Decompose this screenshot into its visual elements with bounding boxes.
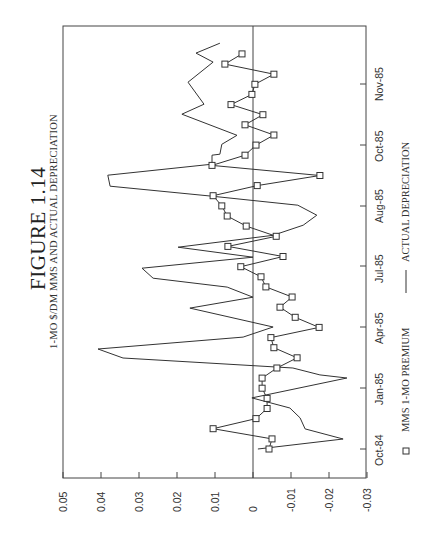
mms-data-point-marker <box>228 102 234 108</box>
mms-data-point-marker <box>253 142 259 148</box>
mms-premium-markers <box>209 51 323 452</box>
mms-data-point-marker <box>269 436 275 442</box>
value-tick-label: 0.02 <box>171 492 183 512</box>
mms-data-point-marker <box>259 385 265 391</box>
actual-depreciation-series <box>98 43 347 449</box>
mms-data-point-marker <box>273 233 279 239</box>
mms-data-point-marker <box>210 426 216 432</box>
mms-data-point-marker <box>268 335 274 341</box>
mms-data-point-marker <box>219 203 225 209</box>
mms-data-point-marker <box>271 345 277 351</box>
mms-data-point-marker <box>271 71 277 77</box>
chart-canvas <box>0 0 436 538</box>
date-tick-label: Apr-85 <box>373 312 385 344</box>
value-axis-ticks <box>63 472 367 478</box>
mms-data-point-marker <box>317 173 323 179</box>
mms-data-point-marker <box>294 355 300 361</box>
mms-data-point-marker <box>264 395 270 401</box>
date-tick-label: Jan-85 <box>373 373 385 405</box>
mms-data-point-marker <box>224 213 230 219</box>
mms-data-point-marker <box>260 112 266 118</box>
mms-data-point-marker <box>209 162 215 168</box>
value-tick-label: 0.05 <box>57 492 69 512</box>
mms-data-point-marker <box>242 152 248 158</box>
mms-data-point-marker <box>264 406 270 412</box>
mms-data-point-marker <box>225 243 231 249</box>
mms-data-point-marker <box>254 183 260 189</box>
value-tick-label: 0.03 <box>133 492 145 512</box>
value-tick-label: 0.04 <box>95 492 107 512</box>
mms-data-point-marker <box>271 132 277 138</box>
mms-data-point-marker <box>249 91 255 97</box>
legend-label-actual: ACTUAL DEPRECIATION <box>400 142 411 262</box>
date-tick-label: Oct-85 <box>373 130 385 162</box>
value-tick-label: 0.01 <box>209 492 221 512</box>
figure-subtitle: 1-MO $/DM MMS AND ACTUAL DEPRECIATION <box>48 114 59 349</box>
mms-data-point-marker <box>239 51 245 57</box>
date-tick-label: Nov-85 <box>373 67 385 101</box>
mms-data-point-marker <box>258 274 264 280</box>
mms-data-point-marker <box>292 314 298 320</box>
legend-square-marker-icon <box>403 448 409 454</box>
mms-data-point-marker <box>274 365 280 371</box>
date-axis-ticks <box>360 84 366 449</box>
mms-data-point-marker <box>242 122 248 128</box>
date-tick-label: Jul-85 <box>373 254 385 283</box>
mms-data-point-marker <box>243 223 249 229</box>
mms-data-point-marker <box>263 284 269 290</box>
date-tick-label: Oct-84 <box>373 434 385 466</box>
mms-data-point-marker <box>316 324 322 330</box>
value-tick-label: -0.02 <box>323 488 335 512</box>
value-tick-label: 0 <box>247 506 259 512</box>
mms-data-point-marker <box>259 375 265 381</box>
date-tick-label: Aug-85 <box>373 189 385 223</box>
value-tick-label: -0.03 <box>361 488 373 512</box>
value-tick-label: -0.01 <box>285 488 297 512</box>
mms-data-point-marker <box>280 254 286 260</box>
mms-data-point-marker <box>289 294 295 300</box>
mms-data-point-marker <box>277 304 283 310</box>
mms-data-point-marker <box>238 264 244 270</box>
mms-data-point-marker <box>252 81 258 87</box>
mms-data-point-marker <box>222 61 228 67</box>
mms-data-point-marker <box>210 193 216 199</box>
legend-label-mms: MMS 1-MO PREMIUM <box>400 328 411 432</box>
mms-data-point-marker <box>253 416 259 422</box>
mms-data-point-marker <box>266 446 272 452</box>
